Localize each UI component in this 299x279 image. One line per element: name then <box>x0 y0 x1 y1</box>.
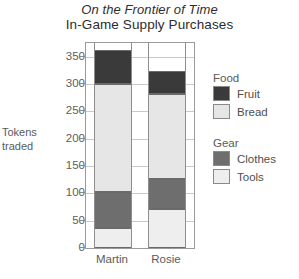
bar-segment-martin-tools[interactable] <box>95 228 131 248</box>
bar-segment-rosie-bread[interactable] <box>149 94 185 179</box>
x-axis-category-label: Rosie <box>136 253 196 265</box>
bar-segment-martin-bread[interactable] <box>95 84 131 192</box>
legend-label-clothes: Clothes <box>237 153 276 165</box>
legend-label-tools: Tools <box>237 171 264 183</box>
legend-item-bread[interactable]: Bread <box>213 104 299 119</box>
bar-segment-rosie-fruit[interactable] <box>149 71 185 94</box>
legend-item-clothes[interactable]: Clothes <box>213 151 299 166</box>
legend-item-tools[interactable]: Tools <box>213 169 299 184</box>
y-axis: 050100150200250300350 <box>45 42 85 249</box>
bar-stack-martin[interactable] <box>94 43 132 248</box>
legend-spacer <box>213 122 299 137</box>
chart-subtitle: In-Game Supply Purchases <box>0 17 299 33</box>
legend-swatch-tools <box>213 169 230 184</box>
legend-swatch-clothes <box>213 151 230 166</box>
legend-group-title-gear: Gear <box>213 137 299 149</box>
bar-segment-rosie-tools[interactable] <box>149 209 185 248</box>
bar-stack-rosie[interactable] <box>148 43 186 248</box>
bar-segment-martin-fruit[interactable] <box>95 50 131 84</box>
chart-title-block: On the Frontier of Time In-Game Supply P… <box>0 2 299 33</box>
bar-segment-rosie-clothes[interactable] <box>149 179 185 209</box>
legend-swatch-bread <box>213 104 230 119</box>
x-axis-category-label: Martin <box>82 253 142 265</box>
legend: FoodFruitBreadGearClothesTools <box>213 72 299 187</box>
legend-swatch-fruit <box>213 86 230 101</box>
legend-group-title-food: Food <box>213 72 299 84</box>
legend-label-bread: Bread <box>237 106 268 118</box>
bar-segment-martin-clothes[interactable] <box>95 192 131 228</box>
legend-item-fruit[interactable]: Fruit <box>213 86 299 101</box>
plot-area <box>85 42 195 249</box>
legend-label-fruit: Fruit <box>237 88 260 100</box>
page-title: On the Frontier of Time <box>0 2 299 17</box>
